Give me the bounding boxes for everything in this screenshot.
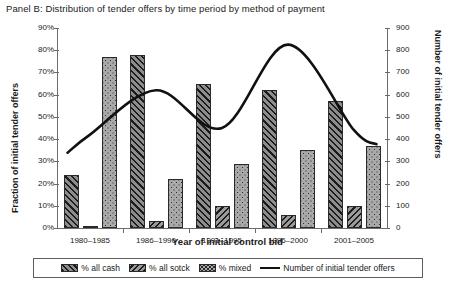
y-axis-right-tick-label: 900: [396, 24, 409, 32]
y-axis-left-tick-label: 80%: [38, 46, 54, 54]
y-axis-left-tick-label: 40%: [38, 135, 54, 143]
legend-item: % all sotck: [129, 263, 190, 273]
y-axis-right: [387, 28, 388, 228]
y-axis-right-tick-label: 200: [396, 180, 409, 188]
y-axis-right-tick-label: 600: [396, 91, 409, 99]
y-axis-right-tick-label: 800: [396, 46, 409, 54]
legend-item-label: % mixed: [219, 263, 252, 273]
legend-item-label: % all sotck: [149, 263, 190, 273]
chart-legend: % all cash% all sotck% mixedNumber of in…: [33, 258, 423, 278]
x-axis-category-label: 2001–2005: [309, 236, 399, 245]
x-axis-tick: [123, 228, 124, 233]
y-axis-right-tick-label: 100: [396, 202, 409, 210]
y-axis-right-tick-label: 400: [396, 135, 409, 143]
y-axis-left-tick-label: 60%: [38, 91, 54, 99]
y-axis-right-title: Number of initial tender offers: [433, 30, 443, 159]
y-axis-left-tick-label: 70%: [38, 68, 54, 76]
y-axis-left-tick-label: 10%: [38, 202, 54, 210]
plot-area: 0%10%20%30%40%50%60%70%80%90% 0100200300…: [57, 28, 387, 228]
y-axis-right-tick-label: 300: [396, 157, 409, 165]
y-axis-left-title: Fraction of initial tender offers: [10, 83, 20, 213]
chart-title: Panel B: Distribution of tender offers b…: [6, 3, 325, 14]
y-axis-right-tick-label: 0: [396, 224, 400, 232]
legend-item: % mixed: [199, 263, 252, 273]
x-axis-tick: [321, 228, 322, 233]
y-axis-left-tick-label: 30%: [38, 157, 54, 165]
y-axis-left-tick-label: 90%: [38, 24, 54, 32]
y-axis-left-tick-label: 0%: [42, 224, 54, 232]
legend-item-label: % all cash: [81, 263, 120, 273]
y-axis-right-tick-label: 500: [396, 113, 409, 121]
y-axis-right-tick: [385, 228, 390, 229]
legend-item: Number of initial tender offers: [260, 263, 394, 273]
legend-swatch-cash-icon: [61, 264, 78, 272]
x-axis-tick: [189, 228, 190, 233]
legend-swatch-line-icon: [260, 267, 280, 269]
legend-swatch-stock-icon: [129, 264, 146, 272]
line-series-number-of-initial-tender-offers: [57, 28, 387, 228]
legend-item-label: Number of initial tender offers: [283, 263, 394, 273]
legend-item: % all cash: [61, 263, 120, 273]
y-axis-left-tick-label: 50%: [38, 113, 54, 121]
y-axis-left-tick: [54, 228, 59, 229]
legend-swatch-mixed-icon: [199, 264, 216, 272]
y-axis-right-tick-label: 700: [396, 68, 409, 76]
y-axis-left-tick-label: 20%: [38, 180, 54, 188]
x-axis-tick: [255, 228, 256, 233]
x-axis: [57, 228, 387, 229]
chart-panel: Panel B: Distribution of tender offers b…: [0, 0, 455, 284]
